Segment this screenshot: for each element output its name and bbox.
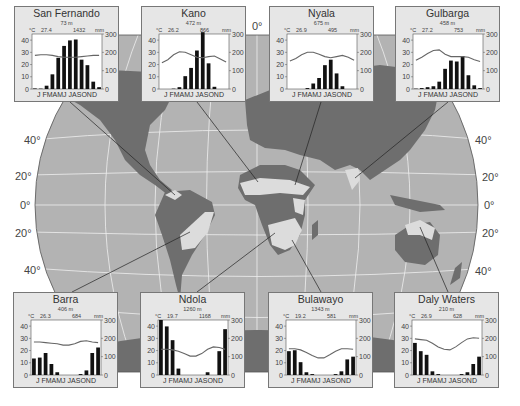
svg-text:0: 0 [280, 86, 284, 93]
svg-text:100: 100 [105, 67, 117, 74]
climate-diagram: 0102030400100200300J FMAMJ JASOND [14, 293, 119, 389]
climate-chart-ndola: Ndola1260 m°C19.71168mm01020304001002003… [140, 292, 245, 388]
climate-chart-kano: Kano472 m°C26.2866mm0102030400100200300J… [141, 6, 246, 102]
svg-text:200: 200 [485, 335, 497, 342]
climate-diagram: 0102030400100200300J FMAMJ JASOND [395, 293, 500, 389]
svg-text:200: 200 [105, 49, 117, 56]
climate-chart-nyala: Nyala675 m°C26.9495mm0102030400100200300… [269, 6, 374, 102]
svg-text:40: 40 [402, 37, 410, 44]
svg-text:30: 30 [21, 49, 29, 56]
svg-text:100: 100 [485, 353, 497, 360]
svg-text:100: 100 [359, 353, 371, 360]
svg-text:200: 200 [360, 49, 372, 56]
svg-text:20: 20 [21, 61, 29, 68]
svg-text:100: 100 [486, 67, 498, 74]
lat-label-left-20s: 20° [15, 227, 32, 239]
svg-text:30: 30 [276, 49, 284, 56]
climate-chart-daly-waters: Daly Waters210 m°C26.9628mm0102030400100… [394, 292, 499, 388]
svg-text:300: 300 [360, 31, 372, 38]
svg-text:J FMAMJ JASOND: J FMAMJ JASOND [291, 377, 351, 384]
lat-label-right-0: 0° [484, 199, 495, 211]
svg-text:0: 0 [231, 372, 235, 379]
climate-diagram: 0102030400100200300J FMAMJ JASOND [269, 293, 374, 389]
svg-text:200: 200 [232, 49, 244, 56]
svg-text:J FMAMJ JASOND: J FMAMJ JASOND [37, 91, 97, 98]
svg-text:200: 200 [231, 335, 243, 342]
svg-text:30: 30 [401, 335, 409, 342]
svg-text:20: 20 [275, 347, 283, 354]
svg-text:100: 100 [360, 67, 372, 74]
svg-text:40: 40 [21, 37, 29, 44]
climate-chart-gulbarga: Gulbarga458 m°C27.2753mm0102030400100200… [395, 6, 500, 102]
svg-text:100: 100 [104, 353, 116, 360]
svg-text:30: 30 [275, 335, 283, 342]
lat-label-right-20s: 20° [482, 227, 499, 239]
svg-text:300: 300 [231, 317, 243, 324]
svg-text:0: 0 [406, 86, 410, 93]
svg-text:300: 300 [359, 317, 371, 324]
svg-text:J FMAMJ JASOND: J FMAMJ JASOND [292, 91, 352, 98]
lat-label-right-20n: 20° [482, 171, 499, 183]
svg-text:0: 0 [151, 372, 155, 379]
svg-text:10: 10 [276, 73, 284, 80]
climate-diagram: 0102030400100200300J FMAMJ JASOND [396, 7, 501, 103]
svg-text:0: 0 [485, 372, 489, 379]
svg-text:300: 300 [104, 317, 116, 324]
climate-diagram: 0102030400100200300J FMAMJ JASOND [15, 7, 120, 103]
svg-text:100: 100 [231, 353, 243, 360]
svg-text:20: 20 [276, 61, 284, 68]
lat-label-left-20n: 20° [15, 170, 32, 182]
svg-text:J FMAMJ JASOND: J FMAMJ JASOND [417, 377, 477, 384]
climate-chart-san-fernando: San Fernando73 m°C27.41432mm010203040010… [14, 6, 119, 102]
climate-chart-barra: Barra406 m°C26.3684mm0102030400100200300… [13, 292, 118, 388]
svg-text:200: 200 [104, 335, 116, 342]
svg-text:J FMAMJ JASOND: J FMAMJ JASOND [164, 91, 224, 98]
lat-label-right-40s: 40° [475, 265, 492, 277]
climate-diagram: 0102030400100200300J FMAMJ JASOND [141, 293, 246, 389]
lat-label-left-0: 0° [20, 199, 31, 211]
svg-text:20: 20 [401, 347, 409, 354]
climate-diagram: 0102030400100200300J FMAMJ JASOND [142, 7, 247, 103]
svg-text:0: 0 [24, 372, 28, 379]
svg-text:100: 100 [232, 67, 244, 74]
svg-text:10: 10 [402, 73, 410, 80]
svg-text:0: 0 [104, 372, 108, 379]
svg-text:30: 30 [148, 49, 156, 56]
svg-text:0: 0 [232, 86, 236, 93]
lat-label-right-40n: 40° [475, 134, 492, 146]
svg-text:200: 200 [486, 49, 498, 56]
lat-label-left-40n: 40° [24, 134, 41, 146]
svg-text:40: 40 [20, 323, 28, 330]
lat-label-left-40s: 40° [24, 264, 41, 276]
svg-text:0: 0 [279, 372, 283, 379]
svg-text:J FMAMJ JASOND: J FMAMJ JASOND [163, 377, 223, 384]
svg-text:10: 10 [401, 359, 409, 366]
svg-text:J FMAMJ JASOND: J FMAMJ JASOND [36, 377, 96, 384]
svg-text:300: 300 [105, 31, 117, 38]
svg-text:40: 40 [276, 37, 284, 44]
svg-text:30: 30 [20, 335, 28, 342]
svg-text:10: 10 [147, 359, 155, 366]
svg-text:0: 0 [486, 86, 490, 93]
svg-text:40: 40 [275, 323, 283, 330]
svg-text:0: 0 [152, 86, 156, 93]
svg-text:40: 40 [147, 323, 155, 330]
svg-text:20: 20 [402, 61, 410, 68]
svg-text:0: 0 [360, 86, 364, 93]
svg-text:40: 40 [148, 37, 156, 44]
svg-text:0: 0 [105, 86, 109, 93]
svg-text:0: 0 [25, 86, 29, 93]
svg-text:300: 300 [486, 31, 498, 38]
svg-text:0: 0 [359, 372, 363, 379]
svg-text:10: 10 [21, 73, 29, 80]
svg-text:30: 30 [147, 335, 155, 342]
climate-chart-bulawayo: Bulawayo1343 m°C19.2581mm010203040010020… [268, 292, 373, 388]
svg-text:40: 40 [401, 323, 409, 330]
svg-text:20: 20 [20, 347, 28, 354]
svg-text:300: 300 [232, 31, 244, 38]
svg-text:300: 300 [485, 317, 497, 324]
svg-text:0: 0 [405, 372, 409, 379]
svg-text:30: 30 [402, 49, 410, 56]
meridian-label: 0° [252, 20, 263, 32]
svg-text:10: 10 [275, 359, 283, 366]
